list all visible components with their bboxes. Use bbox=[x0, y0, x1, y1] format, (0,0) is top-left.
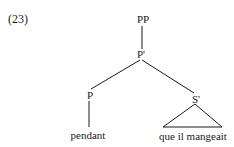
branch-pbar-p bbox=[91, 60, 140, 89]
node-sbar: S' bbox=[192, 93, 200, 105]
tree-branches bbox=[0, 0, 234, 147]
sbar-triangle bbox=[163, 104, 222, 127]
node-p: P bbox=[87, 89, 93, 101]
node-pp: PP bbox=[137, 13, 149, 25]
leaf-pendant: pendant bbox=[71, 129, 106, 141]
node-pbar: P' bbox=[137, 48, 145, 60]
branch-pbar-sbar bbox=[142, 60, 194, 93]
syntax-tree-figure: (23) PP P' P S' pendant que il mangeait bbox=[0, 0, 234, 147]
leaf-que-il-mangeait: que il mangeait bbox=[159, 130, 227, 142]
